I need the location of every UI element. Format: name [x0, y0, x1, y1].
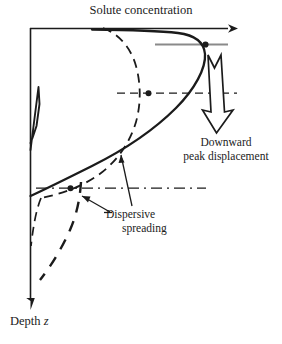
downward-arrow-shape — [203, 55, 234, 133]
curve-initial-pulse — [31, 87, 40, 150]
peak-marker-early — [68, 185, 74, 191]
y-axis-arrowhead — [26, 298, 35, 310]
x-axis-arrowhead — [228, 24, 238, 33]
dispersive-arrowhead-lower — [82, 196, 91, 203]
x-axis-title: Solute concentration — [0, 3, 282, 18]
dispersive-spreading-label-line2: spreading — [106, 222, 210, 236]
dispersive-spreading-label: Dispersivespreading — [106, 208, 210, 235]
dispersive-leader-group — [82, 155, 132, 213]
downward-displacement-arrow — [203, 55, 234, 133]
downward-displacement-label-line1: Downward — [200, 136, 251, 148]
curve-late-profile — [31, 30, 206, 197]
dispersive-arrowhead-upper — [119, 155, 125, 163]
downward-displacement-label: Downwardpeak displacement — [170, 136, 282, 163]
y-axis-title-variable: z — [44, 314, 49, 328]
y-axis-title-text: Depth — [10, 314, 41, 328]
downward-displacement-label-line2: peak displacement — [183, 150, 268, 162]
dispersive-spreading-label-line1: Dispersive — [106, 208, 155, 220]
curve-early-tail — [31, 198, 41, 246]
peak-marker-mid — [146, 90, 152, 96]
y-axis-title: Depth z — [10, 314, 49, 329]
axis-group — [26, 24, 238, 310]
figure-container: Solute concentration Depth z Downwardpea… — [0, 0, 282, 344]
peak-marker-late — [202, 41, 208, 47]
diagram-svg — [0, 0, 282, 344]
